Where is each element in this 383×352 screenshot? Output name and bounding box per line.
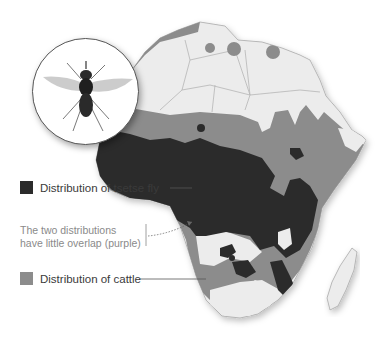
- annotation-line-2: have little overlap (purple): [20, 237, 141, 250]
- cattle-spot: [256, 314, 266, 324]
- annotation-line-1: The two distributions: [20, 224, 141, 237]
- overlap-annotation: The two distributions have little overla…: [20, 224, 141, 250]
- madagascar: [327, 248, 357, 310]
- legend-tsetse-label: Distribution of tsetse fly: [40, 182, 159, 194]
- tsetse-swatch: [20, 181, 33, 194]
- cattle-swatch: [20, 272, 33, 285]
- legend-tsetse: Distribution of tsetse fly: [20, 181, 159, 194]
- tsetse-fly-icon: [33, 39, 138, 144]
- legend-cattle-label: Distribution of cattle: [40, 273, 141, 285]
- tsetse-fly-inset: [32, 38, 139, 145]
- legend-cattle: Distribution of cattle: [20, 272, 141, 285]
